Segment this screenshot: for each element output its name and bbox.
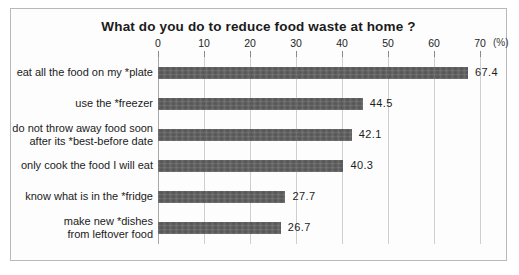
bar-value-label: 42.1 [359,128,382,140]
bar [158,160,343,172]
bar [158,98,363,110]
category-label: only cook the food I will eat [29,150,153,181]
x-tick-label: 50 [382,37,394,49]
category-label-line: eat all the food on my *plate [17,66,153,79]
bar-value-label: 44.5 [370,97,393,109]
bar-value-label: 40.3 [350,159,373,171]
category-label-line: use the *freezer [75,97,153,110]
category-label-line: do not throw away food soon [12,122,153,135]
category-label: make new *dishesfrom leftover food [29,212,153,243]
x-tick-label: 0 [155,37,161,49]
axis-unit-label: (%) [493,37,509,48]
x-tick-label: 30 [290,37,302,49]
category-label-line: from leftover food [67,228,153,241]
bar-row: 42.1 [158,119,498,150]
bar-value-label: 26.7 [288,221,311,233]
category-label-line: after its *best-before date [29,135,153,148]
category-label: eat all the food on my *plate [29,57,153,88]
bar [158,191,285,203]
bar [158,222,281,234]
x-tick-label: 20 [244,37,256,49]
bar-row: 44.5 [158,88,498,119]
bar [158,67,468,79]
category-label-line: make new *dishes [64,215,153,228]
x-tick-label: 40 [336,37,348,49]
x-tick-label: 60 [428,37,440,49]
bar [158,129,352,141]
x-tick-label: 10 [198,37,210,49]
x-axis-tick-labels: 010203040506070(%) [158,37,498,51]
bar-series: 67.444.542.140.327.726.7 [158,57,498,244]
bar-row: 67.4 [158,57,498,88]
category-label-line: know what is in the *fridge [25,190,153,203]
category-label: use the *freezer [29,88,153,119]
chart-frame: What do you do to reduce food waste at h… [10,8,507,261]
category-label: know what is in the *fridge [29,181,153,212]
bar-row: 27.7 [158,181,498,212]
bar-row: 40.3 [158,150,498,181]
x-tick-label: 70 [474,37,486,49]
bar-value-label: 67.4 [475,66,498,78]
category-label-line: only cook the food I will eat [21,159,153,172]
category-label: do not throw away food soonafter its *be… [29,119,153,150]
chart-title: What do you do to reduce food waste at h… [11,19,506,34]
bar-value-label: 27.7 [292,190,315,202]
plot-area: 010203040506070(%) 67.444.542.140.327.72… [158,37,498,252]
bar-row: 26.7 [158,212,498,243]
